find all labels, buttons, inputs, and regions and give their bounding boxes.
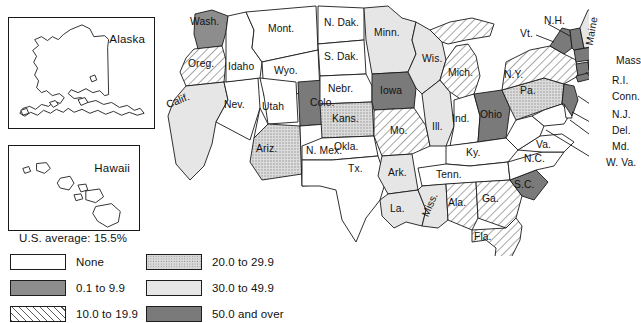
state-label-nebr: Nebr. xyxy=(328,84,353,94)
state-label-del: Del. xyxy=(612,126,631,136)
state-label-iowa: Iowa xyxy=(380,86,402,96)
state-label-ga: Ga. xyxy=(482,194,499,204)
state-label-mo: Mo. xyxy=(390,126,407,136)
state-label-ind: Ind. xyxy=(452,114,470,124)
state-label-colo: Colo. xyxy=(310,98,335,108)
state-label-mont: Mont. xyxy=(268,24,294,34)
state-label-okla: Okla. xyxy=(334,142,359,152)
state-label-nj: N.J. xyxy=(612,110,631,120)
state-label-maine: Maine xyxy=(585,16,600,46)
legend-label-10-19: 10.0 to 19.9 xyxy=(76,308,138,320)
state-label-ark: Ark. xyxy=(388,168,407,178)
map-legend: U.S. average: 15.5% None 20.0 to 29.9 0.… xyxy=(10,232,280,323)
state-label-ala: Ala. xyxy=(448,198,466,208)
hawaii-inset: Hawaii xyxy=(8,145,140,231)
state-label-utah: Utah xyxy=(262,102,284,112)
legend-swatch-none xyxy=(10,254,66,270)
state-label-wash: Wash. xyxy=(190,17,219,27)
state-label-nc: N.C. xyxy=(524,154,545,164)
state-label-mass: Mass xyxy=(616,56,641,66)
state-label-nh: N.H. xyxy=(544,16,565,26)
state-label-pa: Pa. xyxy=(520,86,536,96)
legend-label-20-29: 20.0 to 29.9 xyxy=(212,256,284,268)
state-label-ky: Ky. xyxy=(466,148,480,158)
continental-us-map: Wash. Oreg. Calif. Nev. Idaho Mont. Wyo.… xyxy=(150,4,589,256)
state-label-idaho: Idaho xyxy=(228,62,254,72)
state-label-oreg: Oreg. xyxy=(188,59,214,69)
state-label-ohio: Ohio xyxy=(480,110,502,120)
legend-grid: None 20.0 to 29.9 0.1 to 9.9 30.0 to 49.… xyxy=(10,253,280,323)
state-label-conn: Conn. xyxy=(612,92,640,102)
state-label-va: Va. xyxy=(536,140,551,150)
state-label-fla: Fla. xyxy=(474,232,492,242)
state-label-ill: Ill. xyxy=(432,122,443,132)
hawaii-label: Hawaii xyxy=(94,162,130,174)
state-label-minn: Minn. xyxy=(374,28,400,38)
alaska-label: Alaska xyxy=(109,33,145,45)
legend-label-none: None xyxy=(76,256,138,268)
state-label-la: La. xyxy=(390,204,405,214)
state-label-wva: W. Va. xyxy=(606,158,636,168)
alaska-inset: Alaska xyxy=(8,17,155,129)
state-label-sdak: S. Dak. xyxy=(324,52,358,62)
state-label-wis: Wis. xyxy=(422,54,442,64)
hawaii-shape xyxy=(9,146,139,230)
legend-swatch-20-29 xyxy=(146,254,202,270)
legend-swatch-30-49 xyxy=(146,280,202,296)
state-label-sc: S.C. xyxy=(514,180,534,190)
state-label-tx: Tx. xyxy=(348,164,363,174)
state-label-ndak: N. Dak. xyxy=(324,18,359,28)
state-label-ny: N.Y. xyxy=(504,70,523,80)
legend-swatch-10-19 xyxy=(10,306,66,322)
state-label-md: Md. xyxy=(612,142,629,152)
legend-swatch-0-9 xyxy=(10,280,66,296)
state-label-ri: R.I. xyxy=(612,76,628,86)
us-average-label: U.S. average: 15.5% xyxy=(19,232,280,244)
state-label-wyo: Wyo. xyxy=(274,66,298,76)
state-label-kans: Kans. xyxy=(332,114,359,124)
state-label-ariz: Ariz. xyxy=(256,144,277,154)
state-label-nev: Nev. xyxy=(224,100,245,110)
legend-label-50-over: 50.0 and over xyxy=(212,308,284,320)
us-state-shapes xyxy=(150,4,589,256)
legend-label-0-9: 0.1 to 9.9 xyxy=(76,282,138,294)
state-label-mich: Mich. xyxy=(448,68,473,78)
legend-label-30-49: 30.0 to 49.9 xyxy=(212,282,284,294)
state-label-vt: Vt. xyxy=(520,29,533,39)
state-label-tenn: Tenn. xyxy=(436,170,462,180)
legend-swatch-50-over xyxy=(146,306,202,322)
